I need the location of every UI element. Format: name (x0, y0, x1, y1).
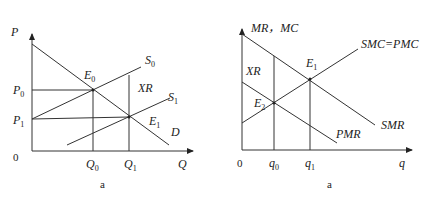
right-figure: MR，MC 0 q0 q1 q SMC=PMC SMR PMR E1 E2 XR… (237, 21, 419, 190)
xr-area-label: XR (245, 64, 261, 78)
y-axis-label: MR，MC (250, 21, 299, 35)
xr-area-label: XR (137, 81, 153, 95)
q0-label: q0 (269, 156, 279, 172)
pmr-curve (242, 82, 337, 143)
p0-label: P0 (12, 83, 24, 99)
x-axis-label: q (399, 156, 405, 170)
left-figure: P P0 P1 0 Q0 Q1 Q E0 E1 S0 S1 D XR a (10, 25, 193, 190)
equilibrium-point-e2 (273, 102, 276, 105)
origin-label: 0 (237, 157, 243, 169)
e0-label: E0 (83, 68, 95, 84)
e1-label: E1 (148, 114, 160, 130)
x-axis-label: Q (178, 157, 187, 171)
e1-label: E1 (305, 56, 317, 72)
p1-label: P1 (12, 113, 24, 129)
d-label: D (170, 125, 180, 139)
equilibrium-point-e0 (92, 89, 95, 92)
smc-pmc-curve (242, 49, 358, 123)
equilibrium-point-e1 (309, 78, 312, 81)
q0-label: Q0 (86, 157, 99, 173)
s1-label: S1 (168, 90, 178, 106)
origin-label: 0 (13, 151, 19, 163)
diagram-canvas: P P0 P1 0 Q0 Q1 Q E0 E1 S0 S1 D XR a MR，… (0, 0, 423, 202)
smr-label: SMR (381, 118, 405, 132)
q1-label: q1 (305, 156, 315, 172)
p1-guide-line (32, 117, 129, 119)
equilibrium-point-e1 (128, 116, 131, 119)
q1-label: Q1 (124, 157, 137, 173)
e2-label: E2 (253, 96, 265, 112)
s0-label: S0 (145, 53, 155, 69)
figure-caption-right: a (327, 178, 332, 190)
pmr-label: PMR (335, 127, 361, 141)
smc-pmc-label: SMC=PMC (361, 37, 419, 51)
figure-caption-left: a (100, 178, 105, 190)
y-axis-label: P (10, 25, 19, 39)
